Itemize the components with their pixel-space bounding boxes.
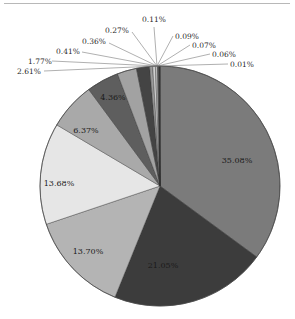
outside-slice-label: 0.27% [105, 26, 129, 35]
outside-slice-label: 0.06% [212, 50, 236, 59]
leader-line [132, 32, 157, 66]
outside-slice-label: 0.01% [230, 60, 254, 69]
leader-line [157, 36, 173, 66]
outside-slice-label: 0.41% [56, 47, 80, 56]
outside-slice-label: 0.09% [175, 32, 199, 41]
leader-line [109, 43, 157, 66]
inside-slice-label: 21.05% [148, 261, 179, 270]
inside-slice-label: 13.70% [73, 247, 104, 256]
leader-line [82, 52, 157, 66]
pie-slices [40, 66, 280, 306]
outside-slice-label: 0.07% [192, 41, 216, 50]
outside-slice-label: 1.77% [28, 57, 52, 66]
inside-slice-label: 35.08% [222, 156, 253, 165]
inside-slice-label: 4.36% [100, 93, 126, 102]
pie-chart: 0.11%0.27%0.36%0.41%1.77%2.61%0.09%0.07%… [0, 0, 295, 319]
inside-slice-label: 13.68% [44, 179, 75, 188]
leader-line [157, 54, 210, 66]
leader-line [157, 64, 228, 66]
leader-line [157, 45, 190, 66]
leader-line [154, 27, 157, 66]
outside-slice-label: 0.36% [82, 37, 106, 46]
inside-slice-label: 6.37% [73, 126, 99, 135]
outside-slice-label: 2.61% [17, 67, 41, 76]
outside-slice-label: 0.11% [142, 15, 166, 24]
leader-line [52, 61, 157, 66]
